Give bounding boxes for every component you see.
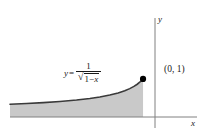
- equation-equals-sign: =: [69, 68, 74, 78]
- data-point-marker: [140, 76, 146, 82]
- y-axis-label: y: [158, 15, 162, 24]
- x-axis-label: x: [191, 119, 195, 128]
- equation-lhs: y: [64, 68, 68, 78]
- equation-fraction: 1 √ 1−x: [76, 61, 101, 84]
- square-root-expression: √ 1−x: [78, 72, 99, 84]
- fraction-numerator: 1: [81, 61, 96, 71]
- radicand: 1−x: [84, 73, 100, 84]
- shaded-area-under-curve: [10, 79, 143, 117]
- figure-graph-of-y-equals-one-over-sqrt-one-minus-x: y x (0, 1) y = 1 √ 1−x: [0, 0, 204, 138]
- radicand-variable-x: x: [94, 74, 98, 84]
- endpoint-coordinate-label: (0, 1): [164, 65, 185, 75]
- equation-annotation: y = 1 √ 1−x: [64, 61, 101, 84]
- fraction-denominator: √ 1−x: [76, 72, 101, 84]
